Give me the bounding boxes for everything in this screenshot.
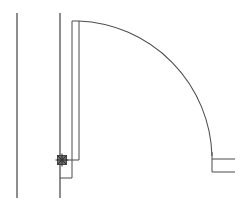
cad-drawing-canvas xyxy=(0,0,246,205)
door-swing-arc xyxy=(79,21,212,156)
hinge-pivot-marker xyxy=(56,154,69,167)
door-swing-plan-drawing xyxy=(0,0,246,205)
